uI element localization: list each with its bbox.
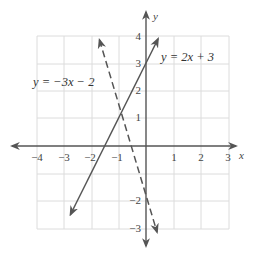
svg-text:4: 4 [136, 30, 142, 42]
coordinate-plane: x y −4 −3 −2 −1 1 2 3 4 3 2 1 −2 −3 y = … [0, 0, 264, 255]
svg-text:2: 2 [136, 84, 142, 96]
svg-text:3: 3 [136, 57, 142, 69]
svg-text:−3: −3 [129, 222, 141, 234]
svg-text:−3: −3 [58, 151, 70, 163]
y-axis-label: y [152, 10, 158, 22]
x-axis-label: x [238, 149, 244, 161]
svg-text:2: 2 [198, 151, 204, 163]
line-y-neg3x-minus-2 [100, 40, 158, 232]
svg-text:1: 1 [136, 111, 142, 123]
equation-label-line2: y = −3x − 2 [31, 75, 94, 89]
equation-label-line1: y = 2x + 3 [159, 50, 214, 64]
svg-text:−1: −1 [111, 151, 123, 163]
x-tick-labels: −4 −3 −2 −1 1 2 3 [31, 151, 231, 163]
y-tick-labels: 4 3 2 1 −2 −3 [129, 30, 141, 234]
svg-text:−2: −2 [84, 151, 96, 163]
line-y-2x-plus-3 [71, 39, 159, 215]
svg-text:1: 1 [171, 151, 177, 163]
svg-text:−4: −4 [31, 151, 43, 163]
svg-text:−2: −2 [129, 194, 141, 206]
svg-text:3: 3 [225, 151, 231, 163]
